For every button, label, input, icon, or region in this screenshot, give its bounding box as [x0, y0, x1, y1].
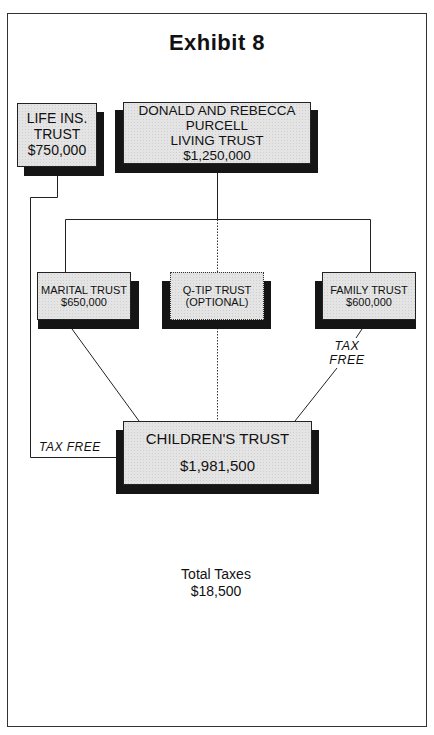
- childrens-trust-node: CHILDREN'S TRUST $1,981,500: [123, 421, 312, 485]
- childrens-trust-amount: $1,981,500: [180, 458, 255, 475]
- living-trust-line3: LIVING TRUST: [171, 133, 264, 148]
- family-trust-amount: $600,000: [346, 296, 392, 308]
- family-trust-node: FAMILY TRUST $600,000: [322, 272, 416, 320]
- total-taxes-value: $18,500: [0, 583, 433, 600]
- family-tax-free-label: TAX FREE: [327, 340, 367, 368]
- life-ins-trust-node: LIFE INS. TRUST $750,000: [17, 103, 97, 167]
- family-trust-label: FAMILY TRUST: [330, 284, 408, 296]
- childrens-trust-label: CHILDREN'S TRUST: [146, 431, 289, 448]
- living-trust-amount: $1,250,000: [183, 148, 251, 163]
- qtip-trust-label: Q-TIP TRUST: [183, 284, 252, 296]
- marital-trust-amount: $650,000: [61, 296, 107, 308]
- marital-trust-label: MARITAL TRUST: [41, 284, 127, 296]
- family-tax-free-line1: TAX: [327, 340, 367, 354]
- life-ins-tax-free-label: TAX FREE: [39, 441, 111, 454]
- marital-trust-node: MARITAL TRUST $650,000: [37, 272, 131, 320]
- living-trust-line1: DONALD AND REBECCA: [139, 103, 296, 118]
- living-trust-node: DONALD AND REBECCA PURCELL LIVING TRUST …: [123, 102, 311, 164]
- total-taxes-label: Total Taxes: [0, 566, 433, 583]
- family-tax-free-line2: FREE: [327, 354, 367, 368]
- qtip-trust-optional: (OPTIONAL): [186, 296, 249, 308]
- life-ins-trust-amount: $750,000: [28, 143, 86, 159]
- life-ins-trust-line2: TRUST: [34, 127, 81, 143]
- living-trust-line2: PURCELL: [186, 118, 248, 133]
- qtip-trust-node: Q-TIP TRUST (OPTIONAL): [170, 272, 264, 320]
- life-ins-trust-line1: LIFE INS.: [27, 111, 88, 127]
